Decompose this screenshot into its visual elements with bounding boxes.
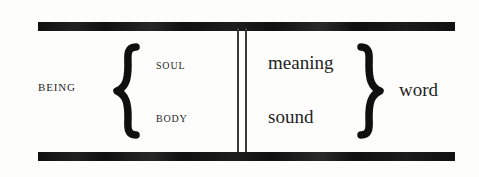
horizontal-rule-bottom [38,152,455,161]
diagram-content-band: BEING SOUL BODY meaning sound word [0,31,479,151]
left-group-member-soul: SOUL [156,57,185,72]
right-group-member-meaning: meaning [268,53,333,72]
diagram-figure: BEING SOUL BODY meaning sound word [0,0,479,177]
right-group-label: word [399,80,438,99]
divider-line-right [245,28,247,155]
left-curly-brace-icon [112,43,142,139]
left-group-label: BEING [38,78,76,94]
right-curly-brace-icon [355,43,385,139]
divider-line-left [237,28,239,155]
left-group-member-body: BODY [156,110,188,125]
right-group-member-sound: sound [268,107,313,126]
